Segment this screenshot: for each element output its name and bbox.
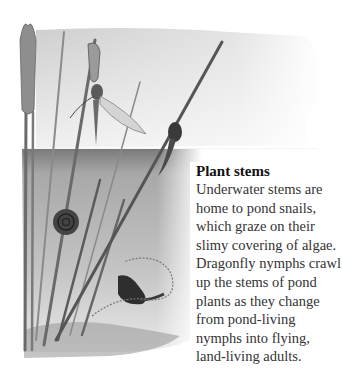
caption-body: Underwater stems are home to pond snails… [196, 180, 342, 366]
ramshorn-snail [53, 209, 79, 235]
caption-block: Plant stems Underwater stems are home to… [196, 162, 342, 366]
caption-title: Plant stems [196, 162, 342, 180]
bulrush-head [20, 24, 36, 114]
